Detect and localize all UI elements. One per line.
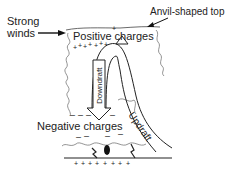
plus-sign: +: [73, 44, 77, 51]
minus-sign: –: [84, 131, 89, 141]
plus-sign: +: [88, 41, 92, 48]
plus-sign: +: [88, 160, 92, 167]
updraft-label: Updraft: [126, 110, 154, 143]
minus-sign: –: [110, 110, 115, 120]
downdraft-label: Downdraft: [95, 67, 104, 104]
plus-sign: +: [111, 160, 115, 167]
plus-sign: +: [112, 25, 116, 32]
plus-sign: +: [126, 160, 130, 167]
tree-icon: [104, 145, 110, 155]
minus-sign: –: [105, 131, 110, 141]
thunderstorm-diagram: Strong winds Anvil-shaped top Positive c…: [0, 0, 236, 174]
plus-sign: +: [103, 160, 107, 167]
plus-sign: +: [94, 42, 98, 49]
negative-charges-label: Negative charges: [37, 120, 123, 132]
cloud-base: [62, 143, 146, 146]
lightning-strike-left: [92, 148, 97, 158]
minus-sign: –: [86, 110, 91, 120]
minus-sign: –: [76, 132, 81, 142]
strong-winds-label-line2: winds: [6, 27, 36, 39]
plus-sign: +: [81, 160, 85, 167]
plus-sign: +: [74, 160, 78, 167]
minus-sign: –: [78, 110, 83, 120]
plus-sign: +: [78, 42, 82, 49]
plus-sign: +: [83, 43, 87, 50]
plus-sign: +: [118, 160, 122, 167]
plus-sign: +: [99, 40, 103, 47]
ground-positive-markers: + + + + + + + +: [74, 160, 130, 167]
plus-sign: +: [104, 41, 108, 48]
minus-sign: –: [118, 129, 123, 139]
plus-sign: +: [95, 160, 99, 167]
strong-winds-label-line1: Strong: [7, 15, 39, 27]
strong-winds-arrow-icon: [58, 30, 66, 36]
minus-sign: –: [70, 110, 75, 120]
anvil-top-label: Anvil-shaped top: [150, 6, 225, 17]
lightning-strike-right: [131, 144, 135, 158]
anvil-pointer-icon: [147, 22, 154, 27]
